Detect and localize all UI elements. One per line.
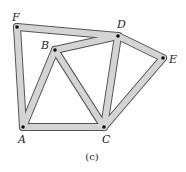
joint-label-c: C xyxy=(102,133,111,146)
joint-label-e: E xyxy=(168,53,177,66)
joint-label-a: A xyxy=(17,133,26,146)
joint-label-f: F xyxy=(11,11,20,24)
joint-f xyxy=(15,25,19,29)
joint-label-d: D xyxy=(116,18,126,31)
joint-d xyxy=(116,34,120,38)
truss-diagram: FBDEAC (c) xyxy=(0,0,186,172)
member-BA xyxy=(23,50,55,127)
figure-caption: (c) xyxy=(85,151,99,162)
member-FA xyxy=(17,27,23,127)
joint-a xyxy=(21,125,25,129)
joint-b xyxy=(53,48,57,52)
member-BD xyxy=(55,36,118,50)
joint-label-b: B xyxy=(40,39,49,52)
joint-c xyxy=(102,125,106,129)
joint-e xyxy=(161,56,165,60)
member-BC xyxy=(55,50,104,127)
member-DE xyxy=(118,36,163,58)
